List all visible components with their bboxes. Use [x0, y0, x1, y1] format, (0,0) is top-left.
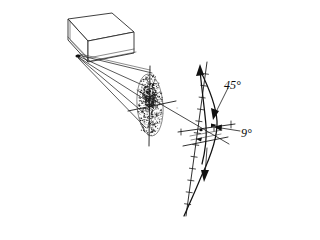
cloud-speck: [145, 126, 146, 127]
cloud-speck: [157, 123, 158, 124]
cloud-speck: [153, 129, 155, 131]
cloud-speck: [156, 113, 157, 114]
cloud-speck: [161, 101, 162, 102]
cloud-speck-core: [153, 102, 154, 103]
cloud-speck: [140, 98, 141, 99]
cloud-speck: [148, 119, 149, 120]
cloud-speck: [148, 75, 149, 76]
cloud-speck: [142, 124, 143, 125]
cloud-speck: [151, 129, 152, 130]
cloud-speck: [142, 91, 143, 92]
cloud-speck: [141, 129, 142, 130]
cloud-speck: [147, 83, 148, 84]
cloud-speck: [154, 83, 155, 84]
cloud-speck: [157, 128, 158, 129]
cloud-speck: [154, 85, 155, 86]
cloud-speck: [160, 100, 161, 101]
cloud-speck: [155, 76, 156, 77]
cloud-speck: [154, 124, 155, 125]
cloud-speck-core: [145, 86, 147, 88]
cloud-speck: [161, 113, 162, 114]
cloud-speck: [155, 105, 156, 106]
cloud-speck-core: [147, 91, 148, 92]
cloud-speck: [139, 118, 140, 119]
cloud-speck: [156, 121, 157, 122]
probe-axis-tick: [189, 168, 195, 169]
cloud-speck: [151, 112, 152, 113]
cloud-speck: [151, 135, 152, 136]
cloud-speck: [160, 110, 161, 111]
cloud-speck-core: [147, 98, 149, 100]
cloud-speck: [159, 121, 160, 122]
cloud-speck: [146, 124, 147, 125]
cloud-speck: [152, 92, 153, 93]
cloud-speck: [154, 112, 155, 113]
cloud-speck: [141, 101, 142, 102]
cloud-speck: [150, 118, 151, 119]
cloud-speck: [141, 105, 142, 106]
cloud-speck: [151, 117, 152, 118]
cloud-speck: [151, 135, 152, 136]
cloud-speck: [162, 101, 163, 102]
probe-axis-tick: [197, 109, 203, 110]
cloud-speck-core: [147, 102, 148, 103]
cloud-speck-core: [152, 86, 153, 87]
cloud-speck: [137, 94, 138, 95]
cloud-speck-core: [145, 97, 146, 98]
cloud-speck: [159, 104, 160, 105]
cloud-speck-core: [153, 104, 155, 106]
cloud-speck-core: [154, 92, 156, 94]
cloud-speck: [142, 111, 143, 112]
cloud-speck-core: [155, 97, 157, 99]
cloud-speck-core: [145, 101, 146, 102]
cloud-speck: [142, 109, 143, 110]
cloud-speck: [154, 79, 155, 80]
cloud-speck: [137, 110, 138, 111]
cloud-speck: [139, 89, 140, 90]
cloud-speck: [140, 94, 141, 95]
ray-4: [78, 57, 145, 114]
cloud-speck: [146, 131, 147, 132]
cloud-speck: [154, 109, 155, 110]
cloud-speck: [149, 78, 150, 79]
cloud-speck: [149, 117, 150, 118]
annotation-arrows: [201, 88, 240, 182]
cloud-speck: [144, 110, 145, 111]
probe-axis-tick: [196, 121, 202, 122]
cloud-speck: [149, 107, 150, 108]
cloud-speck: [152, 123, 153, 124]
cloud-speck: [157, 106, 158, 107]
cloud-speck: [138, 111, 139, 112]
cloud-speck: [157, 130, 158, 131]
cloud-speck: [157, 84, 159, 86]
cloud-speck: [139, 111, 140, 112]
cloud-speck-core: [150, 94, 151, 95]
cloud-speck-core: [146, 87, 147, 88]
cloud-speck: [153, 110, 154, 111]
cloud-speck: [158, 82, 159, 83]
cloud-speck: [159, 119, 160, 120]
cloud-speck: [149, 133, 150, 134]
cloud-speck: [142, 79, 144, 81]
cloud-speck-core: [155, 95, 156, 96]
cloud-speck: [156, 109, 157, 110]
emitted-ray-fan: [75, 54, 152, 128]
cloud-speck: [143, 113, 144, 114]
cloud-speck: [147, 80, 148, 81]
cloud-speck: [160, 112, 161, 113]
cloud-speck: [158, 119, 159, 120]
cloud-speck: [155, 114, 156, 115]
label-9-degrees: 9°: [241, 126, 252, 140]
cloud-speck: [145, 96, 146, 97]
cloud-speck: [159, 112, 160, 113]
cloud-speck: [153, 128, 154, 129]
cloud-speck: [154, 119, 155, 120]
cloud-speck: [161, 109, 162, 110]
cloud-speck: [158, 87, 159, 88]
ray-2: [78, 56, 149, 88]
cloud-speck: [152, 125, 154, 127]
cloud-speck: [152, 127, 153, 128]
cloud-speck: [159, 94, 160, 95]
cloud-speck-core: [148, 94, 149, 95]
cloud-speck: [151, 114, 152, 115]
